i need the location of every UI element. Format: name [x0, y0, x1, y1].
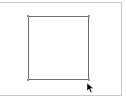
- corner-handle-top-right[interactable]: [88, 15, 90, 17]
- corner-handle-top-left[interactable]: [27, 15, 29, 17]
- mouse-pointer-icon: [87, 78, 95, 88]
- corner-handle-bottom-left[interactable]: [27, 79, 29, 81]
- drawn-rectangle-shape[interactable]: [28, 16, 89, 80]
